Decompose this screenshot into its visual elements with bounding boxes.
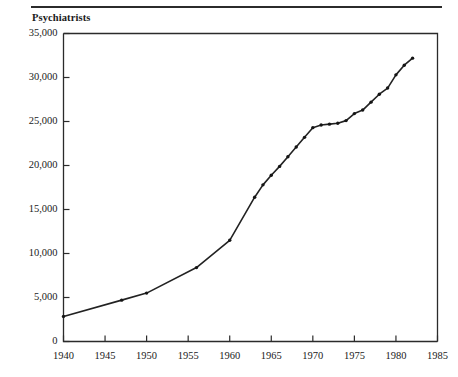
data-point (286, 155, 289, 158)
y-tick-label: 15,000 (4, 203, 58, 214)
data-point (62, 315, 65, 318)
data-point (336, 122, 339, 125)
series-line-psychiatrists (64, 58, 413, 316)
axis-frame-left-bottom (64, 34, 438, 342)
data-point (278, 165, 281, 168)
data-point (195, 266, 198, 269)
x-tick-label: 1965 (251, 350, 291, 361)
data-point (353, 112, 356, 115)
data-point (303, 136, 306, 139)
data-point (295, 145, 298, 148)
x-tick-label: 1985 (418, 350, 458, 361)
data-point (311, 126, 314, 129)
data-point (411, 56, 414, 59)
y-tick-label: 0 (4, 335, 58, 346)
data-point (344, 119, 347, 122)
x-tick-label: 1955 (168, 350, 208, 361)
axis-ticks (64, 34, 438, 342)
data-point (228, 239, 231, 242)
data-point (394, 73, 397, 76)
y-tick-label: 25,000 (4, 115, 58, 126)
data-point (261, 183, 264, 186)
data-point (253, 195, 256, 198)
axes (64, 34, 438, 342)
data-point (120, 298, 123, 301)
data-point (145, 291, 148, 294)
y-tick-label: 20,000 (4, 159, 58, 170)
data-markers (62, 56, 414, 318)
axis-frame-top-right (64, 34, 438, 342)
line-chart-plot (0, 0, 458, 377)
data-point (319, 123, 322, 126)
y-tick-label: 5,000 (4, 291, 58, 302)
data-point (361, 108, 364, 111)
data-point (270, 173, 273, 176)
data-point (369, 100, 372, 103)
x-tick-label: 1945 (85, 350, 125, 361)
data-point (328, 122, 331, 125)
x-tick-label: 1975 (334, 350, 374, 361)
x-tick-label: 1980 (376, 350, 416, 361)
x-tick-label: 1940 (44, 350, 84, 361)
x-tick-label: 1960 (210, 350, 250, 361)
data-point (403, 63, 406, 66)
figure: Psychiatrists 05,00010,00015,00020,00025… (0, 0, 458, 377)
y-tick-label: 10,000 (4, 247, 58, 258)
data-series-psychiatrists (64, 58, 413, 316)
x-tick-label: 1970 (293, 350, 333, 361)
chart-svg (0, 0, 458, 377)
y-tick-label: 30,000 (4, 71, 58, 82)
data-point (386, 86, 389, 89)
x-tick-label: 1950 (127, 350, 167, 361)
data-point (378, 93, 381, 96)
y-tick-label: 35,000 (4, 27, 58, 38)
